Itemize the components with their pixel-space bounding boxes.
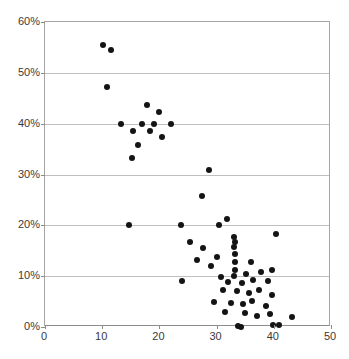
data-point: [250, 277, 256, 283]
plot-area: [44, 21, 330, 326]
data-point: [254, 313, 260, 319]
data-point: [224, 216, 230, 222]
data-point: [179, 278, 185, 284]
y-axis-tick-label: 30%: [0, 169, 40, 180]
y-axis-tick-label: 20%: [0, 219, 40, 230]
data-point: [240, 301, 246, 307]
data-point: [178, 222, 184, 228]
data-point: [222, 309, 228, 315]
x-axis-tick: [217, 325, 218, 329]
x-axis-tick-label: 30: [196, 331, 236, 342]
data-point: [126, 222, 132, 228]
data-point: [269, 292, 275, 298]
data-point: [242, 310, 248, 316]
data-point: [208, 263, 214, 269]
data-point: [239, 280, 245, 286]
data-point: [151, 121, 157, 127]
data-point: [206, 167, 212, 173]
data-point: [159, 134, 165, 140]
y-axis-tick-label: 40%: [0, 118, 40, 129]
data-point: [238, 324, 244, 330]
data-point: [187, 239, 193, 245]
data-point: [135, 142, 141, 148]
data-point: [234, 288, 240, 294]
gridline-y: [45, 175, 329, 176]
data-point: [144, 102, 150, 108]
y-axis-tick: [41, 124, 45, 125]
x-axis-tick: [331, 325, 332, 329]
data-point: [200, 245, 206, 251]
y-axis-tick-label: 50%: [0, 67, 40, 78]
data-point: [225, 279, 231, 285]
data-point: [108, 47, 114, 53]
gridline-y: [45, 276, 329, 277]
x-axis-tick-label: 20: [138, 331, 178, 342]
x-axis-tick-label: 10: [81, 331, 121, 342]
data-point: [100, 42, 106, 48]
data-point: [218, 274, 224, 280]
y-axis-tick: [41, 73, 45, 74]
y-axis-tick: [41, 327, 45, 328]
data-point: [248, 259, 254, 265]
data-point: [214, 254, 220, 260]
data-point: [194, 257, 200, 263]
gridline-y: [45, 73, 329, 74]
data-point: [118, 121, 124, 127]
y-axis-tick: [41, 22, 45, 23]
gridline-y: [45, 225, 329, 226]
x-axis-tick-label: 50: [310, 331, 349, 342]
x-axis-tick: [45, 325, 46, 329]
data-point: [269, 267, 275, 273]
y-axis-tick: [41, 276, 45, 277]
data-point: [232, 259, 238, 265]
y-axis-tick: [41, 225, 45, 226]
y-axis-tick-label: 60%: [0, 16, 40, 27]
data-point: [258, 269, 264, 275]
data-point: [263, 303, 269, 309]
data-point: [104, 84, 110, 90]
y-axis-tick-label: 10%: [0, 270, 40, 281]
data-point: [139, 121, 145, 127]
data-point: [267, 311, 273, 317]
data-point: [231, 244, 237, 250]
data-point: [147, 128, 153, 134]
data-point: [246, 290, 252, 296]
data-point: [199, 193, 205, 199]
data-point: [216, 222, 222, 228]
y-axis-tick: [41, 175, 45, 176]
x-axis-tick: [102, 325, 103, 329]
data-point: [220, 287, 226, 293]
x-axis-tick: [274, 325, 275, 329]
data-point: [256, 287, 262, 293]
data-point: [168, 121, 174, 127]
x-axis-tick-label: 0: [24, 331, 64, 342]
data-point: [249, 298, 255, 304]
data-point: [130, 128, 136, 134]
data-point: [276, 322, 282, 328]
data-point: [211, 299, 217, 305]
data-point: [129, 155, 135, 161]
data-point: [232, 267, 238, 273]
data-point: [156, 109, 162, 115]
scatter-chart-screenshot: 0%10%20%30%40%50%60% 01020304050: [0, 0, 349, 359]
data-point: [228, 300, 234, 306]
chart-title: [6, 0, 346, 7]
data-point: [231, 273, 237, 279]
data-point: [273, 231, 279, 237]
data-point: [265, 278, 271, 284]
x-axis-tick: [159, 325, 160, 329]
x-axis-tick-label: 40: [253, 331, 293, 342]
gridline-y: [45, 124, 329, 125]
data-point: [289, 314, 295, 320]
data-point: [232, 251, 238, 257]
